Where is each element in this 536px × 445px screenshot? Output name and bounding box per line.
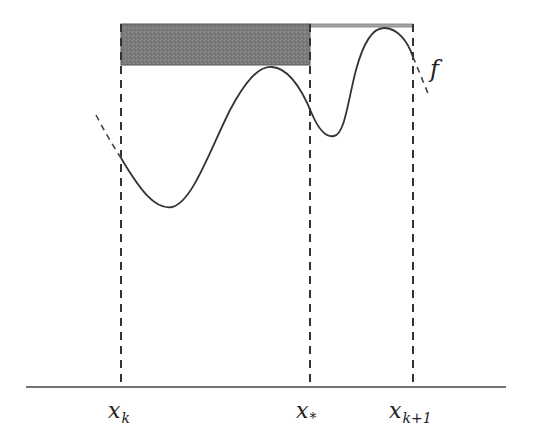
label-xk-sub: k [121,410,129,426]
thin-strip [310,24,413,27]
curve-extension-right [413,57,429,96]
label-xk: xk [108,398,130,423]
label-xstar: x* [296,398,316,423]
diagram-canvas [0,0,536,445]
curve-extension-left [96,115,121,158]
label-xstar-base: x [296,398,308,423]
label-xk1-sub: k+1 [402,410,431,426]
label-xk1: xk+1 [389,398,432,423]
label-xstar-sub: * [309,410,316,426]
function-label: f [430,55,439,83]
label-xk1-base: x [389,398,401,423]
shaded-region [121,24,310,65]
label-xk-base: x [108,398,120,423]
